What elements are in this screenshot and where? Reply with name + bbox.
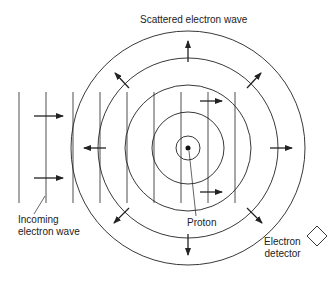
diagram-title: Scattered electron wave: [140, 14, 240, 26]
incoming-leader-line: [34, 196, 45, 214]
arrow-downleft-icon: [114, 208, 129, 223]
arrow-upleft-icon: [115, 73, 129, 88]
arrow-downright-icon: [247, 208, 262, 223]
incoming-label-line1: Incoming: [18, 214, 80, 226]
proton-label: Proton: [187, 217, 216, 229]
detector-label-line1: Electron: [264, 236, 301, 248]
electron-detector-label: Electron detector: [264, 236, 301, 260]
leader-lines: [34, 151, 196, 216]
incoming-label-line2: electron wave: [18, 226, 80, 238]
detector-label-line2: detector: [264, 248, 301, 260]
incoming-wavefronts: [19, 92, 235, 203]
arrow-upright-icon: [247, 73, 261, 88]
proton-dot: [186, 146, 191, 151]
incoming-wave-label: Incoming electron wave: [18, 214, 80, 238]
electron-detector-icon: [307, 226, 327, 246]
incoming-arrows: [34, 101, 222, 192]
